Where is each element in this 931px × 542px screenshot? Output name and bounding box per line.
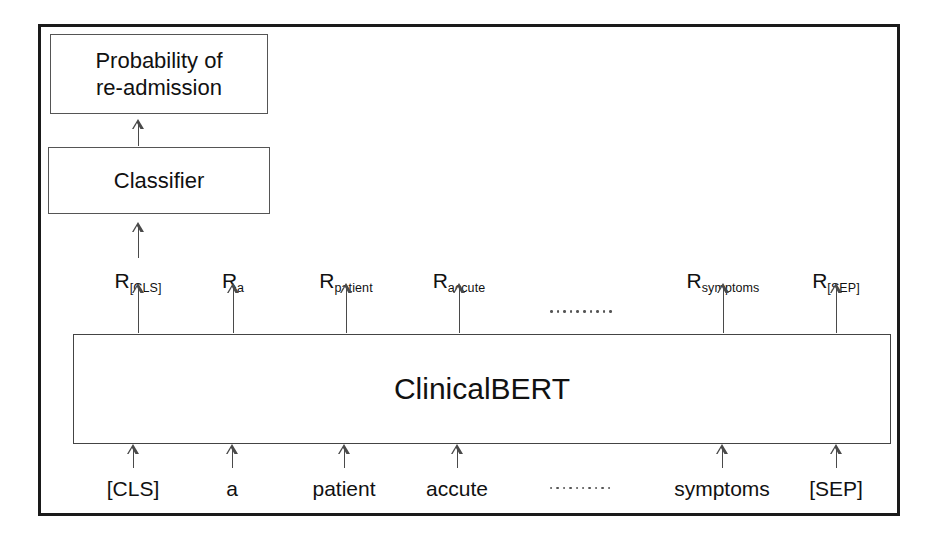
arrow-token-to-bert	[715, 444, 729, 468]
clinicalbert-label: ClinicalBERT	[394, 370, 570, 408]
figure-canvas: Probability of re-admission Classifier R…	[0, 0, 931, 542]
arrow-token-to-bert	[829, 444, 843, 468]
ellipsis-dot	[608, 487, 610, 489]
representation-base: R	[115, 269, 130, 292]
ellipsis-dot	[576, 487, 578, 489]
ellipsis-dot	[550, 487, 552, 489]
ellipsis-dot	[595, 487, 597, 489]
token-label: accute	[426, 478, 488, 499]
representations-ellipsis	[550, 310, 612, 313]
arrow-bert-to-representation	[339, 283, 353, 333]
arrow-bert-to-representation	[452, 283, 466, 333]
token-label: a	[226, 478, 238, 499]
arrow-shaft	[233, 289, 234, 333]
ellipsis-dot	[601, 487, 603, 489]
output-probability-label: Probability of re-admission	[95, 47, 222, 102]
output-probability-box: Probability of re-admission	[50, 34, 268, 114]
arrow-token-to-bert	[225, 444, 239, 468]
clinicalbert-box: ClinicalBERT	[73, 334, 891, 444]
ellipsis-dot	[596, 310, 599, 313]
arrow-shaft	[344, 450, 345, 468]
arrow-representation-to-classifier	[131, 222, 145, 258]
arrow-shaft	[722, 450, 723, 468]
ellipsis-dot	[588, 487, 590, 489]
arrow-token-to-bert	[450, 444, 464, 468]
representation-base: R	[687, 269, 702, 292]
arrow-shaft	[232, 450, 233, 468]
arrow-shaft	[457, 450, 458, 468]
token-label: symptoms	[674, 478, 770, 499]
arrow-token-to-bert	[126, 444, 140, 468]
arrow-bert-to-representation	[829, 283, 843, 333]
tokens-ellipsis	[550, 487, 610, 489]
arrow-shaft	[346, 289, 347, 333]
ellipsis-dot	[557, 310, 560, 313]
representation-base: R	[812, 269, 827, 292]
ellipsis-dot	[583, 310, 586, 313]
arrow-shaft	[723, 289, 724, 333]
arrow-token-to-bert	[337, 444, 351, 468]
arrow-bert-to-representation	[131, 283, 145, 333]
ellipsis-dot	[556, 487, 558, 489]
classifier-label: Classifier	[114, 167, 204, 195]
arrow-shaft	[138, 289, 139, 333]
token-label: [CLS]	[107, 478, 160, 499]
token-label: patient	[312, 478, 375, 499]
ellipsis-dot	[590, 310, 593, 313]
ellipsis-dot	[570, 310, 573, 313]
arrow-bert-to-representation	[226, 283, 240, 333]
ellipsis-dot	[563, 487, 565, 489]
classifier-box: Classifier	[48, 147, 270, 214]
arrow-classifier-to-output	[131, 119, 145, 146]
ellipsis-dot	[576, 310, 579, 313]
arrow-shaft	[138, 228, 139, 258]
token-label: [SEP]	[809, 478, 863, 499]
ellipsis-dot	[582, 487, 584, 489]
arrow-bert-to-representation	[716, 283, 730, 333]
representation-subscript: symptoms	[702, 281, 760, 295]
ellipsis-dot	[569, 487, 571, 489]
representation-base: R	[319, 269, 334, 292]
arrow-shaft	[836, 289, 837, 333]
ellipsis-dot	[550, 310, 553, 313]
arrow-shaft	[459, 289, 460, 333]
representation-base: R	[433, 269, 448, 292]
ellipsis-dot	[609, 310, 612, 313]
arrow-shaft	[138, 125, 139, 146]
ellipsis-dot	[603, 310, 606, 313]
arrow-shaft	[133, 450, 134, 468]
arrow-shaft	[836, 450, 837, 468]
ellipsis-dot	[563, 310, 566, 313]
